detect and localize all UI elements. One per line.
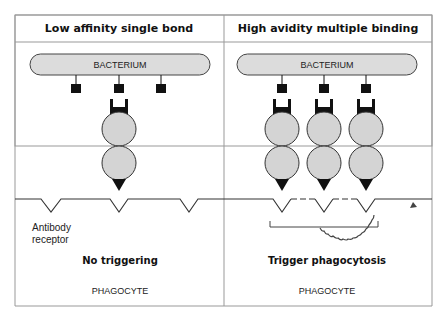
outcome-label: No triggering bbox=[82, 255, 158, 266]
phagocyte-label: PHAGOCYTE bbox=[92, 286, 149, 296]
antibody bbox=[102, 99, 136, 191]
antigens bbox=[71, 75, 166, 93]
panel-low-affinity: Low affinity single bond BACTERIUM Antib… bbox=[15, 22, 224, 296]
panel-title: High avidity multiple binding bbox=[238, 22, 419, 35]
outcome-label: Trigger phagocytosis bbox=[268, 255, 386, 266]
antigens bbox=[277, 75, 371, 93]
bacterium-label: BACTERIUM bbox=[300, 60, 353, 70]
antibody-binding-diagram: Low affinity single bond BACTERIUM Antib… bbox=[0, 0, 443, 320]
antibodies bbox=[265, 99, 383, 191]
phagocyte-membrane bbox=[224, 199, 291, 212]
receptor-label-2: receptor bbox=[32, 234, 69, 245]
crosslink-bracket bbox=[270, 221, 378, 227]
phagocyte-label: PHAGOCYTE bbox=[299, 286, 356, 296]
panel-high-avidity: High avidity multiple binding BACTERIUM bbox=[224, 22, 432, 296]
receptor-label: Antibody bbox=[32, 222, 71, 233]
bacterium-label: BACTERIUM bbox=[93, 60, 146, 70]
phagocyte-membrane bbox=[15, 199, 224, 212]
panel-title: Low affinity single bond bbox=[45, 22, 193, 35]
